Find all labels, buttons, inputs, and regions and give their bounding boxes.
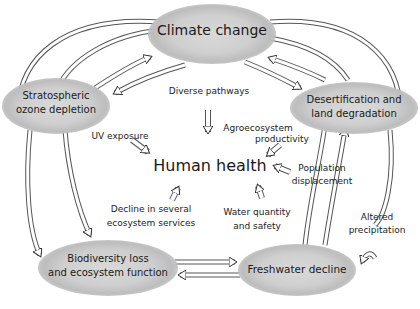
water-quantity-label-line1: Water quantity [222, 207, 292, 218]
population-label-line1: Population [292, 163, 352, 174]
water-quantity-label-line2: and safety [228, 221, 286, 232]
altered-precipitation-label-line1: Altered [352, 212, 402, 223]
agroecosystem-label-line2: productivity [252, 134, 312, 145]
climate-change-label: Climate change [148, 22, 276, 40]
ozone-label-line2: ozone depletion [2, 104, 110, 117]
population-label-line2: displacement [288, 176, 356, 187]
altered-precipitation-label-line2: precipitation [344, 225, 410, 236]
human-health-label: Human health [140, 156, 280, 176]
uv-exposure-label: UV exposure [90, 131, 150, 142]
decline-label-line2: ecosystem services [104, 218, 198, 229]
decline-label-line1: Decline in several [106, 204, 196, 215]
freshwater-label: Freshwater decline [238, 263, 356, 276]
biodiversity-label-line1: Biodiversity loss [38, 253, 178, 266]
desertification-label-line1: Desertification and [290, 94, 418, 107]
biodiversity-label-line2: and ecosystem function [38, 267, 178, 280]
desertification-label-line2: land degradation [290, 108, 418, 121]
agroecosystem-label-line1: Agroecosystem [220, 123, 296, 134]
ozone-label-line1: Stratospheric [2, 90, 110, 103]
diverse-pathways-label: Diverse pathways [166, 86, 252, 97]
